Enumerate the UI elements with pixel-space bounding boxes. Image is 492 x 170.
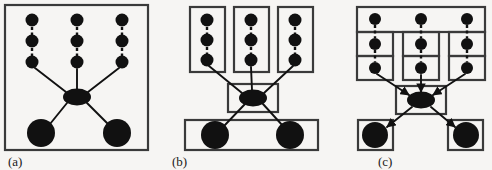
node-col2-row2[interactable] <box>415 38 427 50</box>
node-col2-row3[interactable] <box>71 56 84 69</box>
large-node-right[interactable] <box>103 119 131 147</box>
large-node-left[interactable] <box>27 119 55 147</box>
node-col1-row3[interactable] <box>201 54 214 67</box>
node-col1-row1[interactable] <box>369 13 381 25</box>
large-node-right[interactable] <box>276 121 304 149</box>
figure-root: (a)(b)(c) <box>0 0 492 170</box>
panel-b-caption: (b) <box>172 154 187 169</box>
node-col3-row1[interactable] <box>116 14 129 27</box>
large-node-left[interactable] <box>362 122 388 148</box>
node-col1-row3[interactable] <box>369 62 381 74</box>
hub-ellipse[interactable] <box>407 92 435 109</box>
node-col1-row2[interactable] <box>369 38 381 50</box>
node-col1-row1[interactable] <box>201 14 214 27</box>
node-col2-row3[interactable] <box>245 54 258 67</box>
panel-c-caption: (c) <box>378 154 392 169</box>
node-col3-row3[interactable] <box>116 56 129 69</box>
hub-ellipse[interactable] <box>63 89 91 106</box>
node-col1-row1[interactable] <box>26 14 39 27</box>
panel-a-caption: (a) <box>8 154 22 169</box>
node-col3-row2[interactable] <box>461 38 473 50</box>
node-col2-row1[interactable] <box>245 14 258 27</box>
node-col1-row3[interactable] <box>26 56 39 69</box>
node-col2-row1[interactable] <box>71 14 84 27</box>
large-node-right[interactable] <box>453 122 479 148</box>
node-col3-row3[interactable] <box>461 62 473 74</box>
hub-ellipse[interactable] <box>239 90 267 107</box>
large-node-left[interactable] <box>201 121 229 149</box>
node-col2-row3[interactable] <box>415 62 427 74</box>
node-col3-row3[interactable] <box>289 54 302 67</box>
node-col3-row1[interactable] <box>289 14 302 27</box>
node-col2-row2[interactable] <box>245 34 258 47</box>
node-col3-row2[interactable] <box>116 35 129 48</box>
edge-col2-to-hub <box>251 67 252 90</box>
node-col1-row2[interactable] <box>201 34 214 47</box>
node-col1-row2[interactable] <box>26 35 39 48</box>
node-col2-row2[interactable] <box>71 35 84 48</box>
node-col2-row1[interactable] <box>415 13 427 25</box>
node-col3-row1[interactable] <box>461 13 473 25</box>
figure-canvas: (a)(b)(c) <box>0 0 492 170</box>
node-col3-row2[interactable] <box>289 34 302 47</box>
